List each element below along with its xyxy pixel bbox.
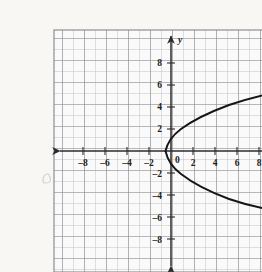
y-tick-label: 2 [157, 124, 162, 134]
worksheet-page: –8 –6 –4 –2 2 4 6 8 8 6 4 2 –2 –4 –6 –8 [0, 0, 262, 272]
x-tick-label: –2 [143, 158, 154, 168]
x-tick-label: 2 [191, 158, 196, 168]
graph-canvas: –8 –6 –4 –2 2 4 6 8 8 6 4 2 –2 –4 –6 –8 [40, 16, 262, 272]
x-tick-label: 6 [235, 158, 240, 168]
coordinate-graph-figure: –8 –6 –4 –2 2 4 6 8 8 6 4 2 –2 –4 –6 –8 [40, 16, 262, 272]
x-tick-label: –6 [99, 158, 110, 168]
y-axis-label: y [177, 35, 183, 45]
y-tick-label: –4 [152, 191, 163, 201]
origin-label: 0 [175, 155, 180, 165]
x-tick-label: 4 [213, 158, 218, 168]
y-tick-label: –2 [152, 169, 163, 179]
x-tick-label: 8 [257, 158, 262, 168]
x-tick-label: –4 [121, 158, 132, 168]
y-tick-label: 4 [157, 102, 162, 112]
y-tick-label: 8 [157, 58, 162, 68]
y-tick-label: –8 [152, 235, 163, 245]
y-tick-label: 6 [157, 80, 162, 90]
y-tick-label: –6 [152, 213, 163, 223]
x-tick-label: –8 [77, 158, 88, 168]
